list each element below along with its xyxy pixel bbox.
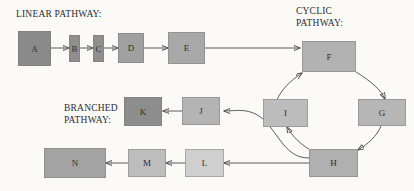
node-d[interactable]: D	[118, 33, 144, 63]
node-k-label: K	[140, 106, 147, 116]
node-m-label: M	[143, 158, 151, 168]
arrow-i-to-f	[277, 73, 302, 100]
node-d-label: D	[128, 43, 135, 53]
arrow-g-to-h	[358, 126, 381, 150]
pathway-diagram: LINEAR PATHWAY: CYCLIC PATHWAY: BRANCHED…	[0, 0, 414, 191]
node-l-label: L	[202, 158, 208, 168]
node-c-label: C	[95, 43, 101, 53]
node-j-label: J	[199, 106, 203, 116]
node-g-label: G	[379, 107, 386, 117]
node-l[interactable]: L	[185, 149, 224, 177]
node-k[interactable]: K	[124, 97, 162, 126]
node-i-label: I	[284, 108, 287, 118]
node-g[interactable]: G	[358, 99, 406, 126]
node-j[interactable]: J	[182, 97, 220, 125]
node-h[interactable]: H	[309, 149, 358, 177]
node-e-label: E	[184, 43, 190, 53]
node-i[interactable]: I	[263, 99, 308, 127]
node-m[interactable]: M	[128, 149, 166, 177]
node-f-label: F	[326, 51, 331, 61]
node-b[interactable]: B	[69, 35, 80, 62]
node-a[interactable]: A	[18, 31, 51, 66]
node-c[interactable]: C	[93, 35, 104, 62]
node-h-label: H	[330, 158, 337, 168]
node-n-label: N	[72, 158, 79, 168]
arrow-f-to-g	[356, 72, 385, 99]
node-f[interactable]: F	[302, 41, 356, 72]
node-n[interactable]: N	[44, 148, 106, 178]
node-e[interactable]: E	[168, 32, 205, 64]
node-b-label: B	[71, 43, 77, 53]
node-a-label: A	[31, 43, 38, 53]
